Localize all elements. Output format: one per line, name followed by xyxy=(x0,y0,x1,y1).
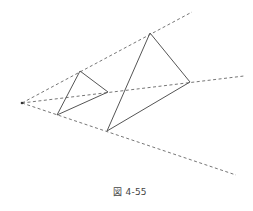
large-triangle xyxy=(107,33,190,131)
homothety-figure: 図 4-55 xyxy=(0,0,253,211)
small-triangle xyxy=(57,71,108,115)
projection-rays xyxy=(22,12,244,175)
figure-caption: 図 4-55 xyxy=(0,185,253,198)
center-point xyxy=(21,102,24,105)
diagram-canvas xyxy=(0,0,253,211)
ray-middle xyxy=(22,76,244,103)
triangles xyxy=(57,33,190,131)
ray-top xyxy=(22,12,192,103)
ray-bottom xyxy=(22,103,236,175)
